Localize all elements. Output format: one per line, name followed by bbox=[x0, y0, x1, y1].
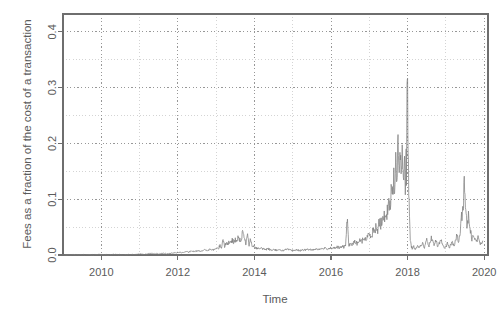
x-tick-label: 2012 bbox=[166, 266, 190, 278]
y-tick-label: 0.2 bbox=[46, 136, 58, 151]
fee-fraction-chart-figure: 2010201220142016201820200.00.10.20.30.4 … bbox=[0, 0, 504, 314]
x-tick-label: 2016 bbox=[319, 266, 343, 278]
chart-canvas: 2010201220142016201820200.00.10.20.30.4 … bbox=[0, 0, 504, 314]
y-axis-label: Fees as a fraction of the cost of a tran… bbox=[21, 19, 33, 248]
y-tick-label: 0.1 bbox=[46, 192, 58, 207]
y-tick-label: 0.4 bbox=[46, 24, 58, 39]
x-tick-label: 2020 bbox=[472, 266, 496, 278]
y-tick-label: 0.0 bbox=[46, 247, 58, 262]
y-tick-label: 0.3 bbox=[46, 80, 58, 95]
x-tick-label: 2010 bbox=[89, 266, 113, 278]
x-tick-label: 2014 bbox=[242, 266, 266, 278]
x-axis-label: Time bbox=[262, 293, 287, 305]
x-tick-label: 2018 bbox=[395, 266, 419, 278]
